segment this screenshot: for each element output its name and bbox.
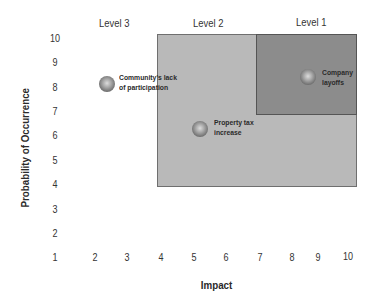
y-tick: 3 xyxy=(47,203,63,215)
level-2-label: Level 2 xyxy=(193,17,223,29)
x-tick: 6 xyxy=(218,251,234,263)
y-tick: 4 xyxy=(47,178,63,190)
level-3-label: Level 3 xyxy=(99,17,129,29)
x-tick: 8 xyxy=(284,251,300,263)
risk-label-community: Community's lack of participation xyxy=(119,73,177,93)
x-tick: 2 xyxy=(87,251,103,263)
risk-label-property-tax: Property tax increase xyxy=(214,118,254,138)
x-axis-title: Impact xyxy=(201,279,233,291)
risk-label-company-layoffs: Company layoffs xyxy=(322,68,353,88)
x-tick: 10 xyxy=(340,250,356,262)
y-tick: 5 xyxy=(47,154,63,166)
y-tick: 9 xyxy=(47,56,63,68)
y-axis-title: Probability of Occurrence xyxy=(19,89,31,208)
x-tick: 7 xyxy=(252,251,268,263)
x-tick: 9 xyxy=(310,251,326,263)
risk-point-company-layoffs-icon xyxy=(300,69,316,85)
y-tick: 2 xyxy=(47,227,63,239)
y-tick: 8 xyxy=(47,81,63,93)
y-tick: 6 xyxy=(47,129,63,141)
y-tick: 10 xyxy=(47,32,63,44)
x-tick: 4 xyxy=(153,251,169,263)
x-tick: 5 xyxy=(186,251,202,263)
y-tick: 1 xyxy=(47,251,63,263)
level-1-label: Level 1 xyxy=(296,16,326,28)
risk-point-property-tax-icon xyxy=(192,121,208,137)
y-tick: 7 xyxy=(47,105,63,117)
risk-point-community-icon xyxy=(99,76,115,92)
x-tick: 3 xyxy=(119,251,135,263)
